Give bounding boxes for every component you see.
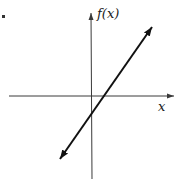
function-graph: f(x) x: [0, 0, 177, 181]
function-line: [60, 27, 152, 159]
graph-canvas: [0, 0, 177, 181]
x-axis-label: x: [158, 100, 165, 113]
stray-mark: [2, 15, 5, 18]
y-axis: [91, 13, 92, 179]
y-axis-label: f(x): [97, 7, 119, 20]
